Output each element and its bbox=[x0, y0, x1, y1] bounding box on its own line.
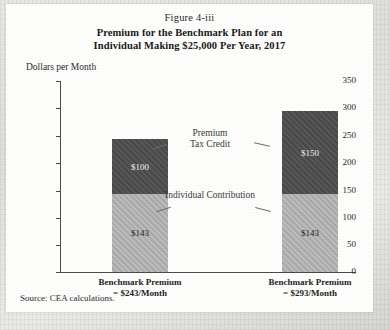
y-tick-50 bbox=[56, 245, 61, 246]
y-tick-350 bbox=[56, 81, 61, 82]
bar-2-premium-tax-credit-segment[interactable]: $150 bbox=[282, 111, 338, 194]
bar-2-premium-tax-credit-value: $150 bbox=[301, 148, 319, 158]
y-tick-300 bbox=[56, 108, 61, 109]
annotation-individual-contribution: Individual Contribution bbox=[158, 190, 262, 201]
chart-plot-area: 350 300 250 200 150 100 50 0 $100 $143 $… bbox=[26, 76, 356, 276]
y-tick-250 bbox=[56, 136, 61, 137]
figure-title-line-1: Premium for the Benchmark Plan for an bbox=[20, 26, 359, 39]
category-label-1-line-1: Benchmark Premium bbox=[65, 277, 215, 288]
bar-2-individual-contribution-value: $143 bbox=[301, 228, 319, 238]
category-label-2: Benchmark Premium = $293/Month bbox=[235, 277, 385, 299]
bar-1-premium-tax-credit-value: $100 bbox=[131, 162, 149, 172]
annotation-premium-tax-credit: Premium Tax Credit bbox=[168, 128, 252, 150]
bar-2-individual-contribution-segment[interactable]: $143 bbox=[282, 194, 338, 272]
y-tick-150 bbox=[56, 191, 61, 192]
bar-1-premium-tax-credit-segment[interactable]: $100 bbox=[112, 139, 168, 194]
bar-1-individual-contribution-value: $143 bbox=[131, 228, 149, 238]
y-axis-title: Dollars per Month bbox=[26, 62, 96, 72]
source-note: Source: CEA calculations. bbox=[20, 293, 115, 303]
figure-title-line-2: Individual Making $25,000 Per Year, 2017 bbox=[20, 39, 359, 52]
x-axis-line bbox=[60, 272, 356, 273]
bar-column-1[interactable]: $100 $143 bbox=[112, 76, 168, 272]
figure-title: Premium for the Benchmark Plan for an In… bbox=[20, 26, 359, 52]
y-tick-200 bbox=[56, 163, 61, 164]
document-page: Figure 4-iii Premium for the Benchmark P… bbox=[6, 4, 373, 312]
y-tick-100 bbox=[56, 218, 61, 219]
leader-line-premium-tax-credit-right bbox=[254, 142, 270, 146]
figure-number: Figure 4-iii bbox=[6, 12, 373, 23]
category-label-2-line-2: = $293/Month bbox=[235, 288, 385, 299]
bar-column-2[interactable]: $150 $143 bbox=[282, 76, 338, 272]
leader-line-individual-contribution-right bbox=[255, 207, 271, 212]
annotation-premium-tax-credit-line-1: Premium bbox=[168, 128, 252, 139]
bar-1-individual-contribution-segment[interactable]: $143 bbox=[112, 194, 168, 272]
y-tick-0 bbox=[56, 272, 61, 273]
annotation-premium-tax-credit-line-2: Tax Credit bbox=[168, 139, 252, 150]
category-label-2-line-1: Benchmark Premium bbox=[235, 277, 385, 288]
